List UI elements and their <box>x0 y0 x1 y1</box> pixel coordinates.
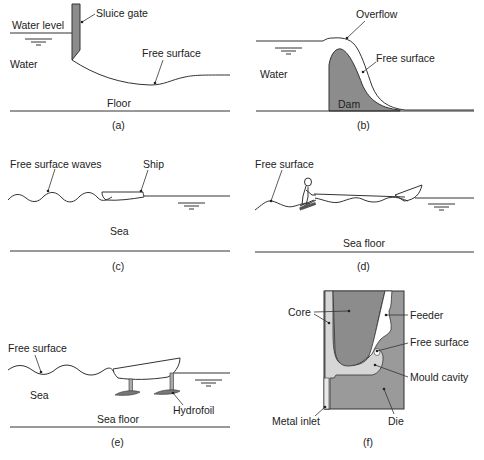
caption-f: (f) <box>363 436 373 448</box>
free-surface-curve <box>72 60 230 85</box>
label-mould-cavity: Mould cavity <box>410 371 469 383</box>
label-dam: Dam <box>338 98 360 110</box>
water-skier-figure <box>299 178 316 211</box>
label-overflow: Overflow <box>356 8 398 20</box>
label-sea-floor: Sea floor <box>97 413 140 425</box>
label-free-surface: Free surface <box>255 158 314 170</box>
label-sea: Sea <box>30 389 49 401</box>
panel-f-die-casting: Core Feeder Free surface Mould cavity Me… <box>272 291 469 448</box>
hydrofoil-wing-rear <box>154 390 180 395</box>
water-level-symbol-icon <box>178 203 205 209</box>
label-floor: Floor <box>107 97 131 109</box>
panel-b-dam: Overflow Free surface Water Dam (b) <box>256 8 474 131</box>
panel-a-sluice-gate: Sluice gate Water level Water Free surfa… <box>10 4 230 131</box>
label-ship: Ship <box>143 158 164 170</box>
panel-d-water-skier: Free surface Sea floor (d) <box>255 158 474 272</box>
label-water-level: Water level <box>12 19 64 31</box>
free-surface-waves <box>8 365 114 375</box>
boat-hull <box>395 185 422 201</box>
free-surface-flow-diagram: Sluice gate Water level Water Free surfa… <box>0 0 484 460</box>
boat-wake <box>315 197 408 202</box>
label-free-surface: Free surface <box>142 47 201 59</box>
panel-c-ship: Free surface waves Ship Sea (c) <box>8 158 230 272</box>
label-sea: Sea <box>110 225 129 237</box>
label-metal-inlet: Metal inlet <box>272 415 320 427</box>
label-water: Water <box>260 68 288 80</box>
caption-d: (d) <box>357 260 370 272</box>
label-sluice-gate: Sluice gate <box>96 7 148 19</box>
water-level-symbol-icon <box>195 380 222 386</box>
sluice-gate-shape <box>72 4 80 60</box>
tow-rope <box>314 194 405 197</box>
water-level-symbol-icon <box>428 204 455 210</box>
label-free-surface: Free surface <box>410 336 469 348</box>
panel-e-hydrofoil: Free surface Sea Sea floor Hydrofoil (e) <box>8 342 230 448</box>
water-level-symbol-icon <box>25 39 52 45</box>
label-sea-floor: Sea floor <box>343 237 386 249</box>
free-surface-waves <box>8 192 112 201</box>
label-core: Core <box>288 306 311 318</box>
hydrofoil-wing-front <box>115 391 140 396</box>
caption-e: (e) <box>111 436 124 448</box>
label-water: Water <box>10 58 38 70</box>
label-die: Die <box>388 415 404 427</box>
label-feeder: Feeder <box>410 309 444 321</box>
caption-b: (b) <box>357 119 370 131</box>
label-free-surface: Free surface <box>376 52 435 64</box>
metal-inlet-channel <box>324 378 329 409</box>
label-free-surface-waves: Free surface waves <box>10 158 102 170</box>
label-hydrofoil: Hydrofoil <box>173 404 214 416</box>
caption-c: (c) <box>112 260 124 272</box>
label-free-surface: Free surface <box>8 342 67 354</box>
water-level-symbol-icon <box>275 48 302 54</box>
caption-a: (a) <box>112 119 125 131</box>
